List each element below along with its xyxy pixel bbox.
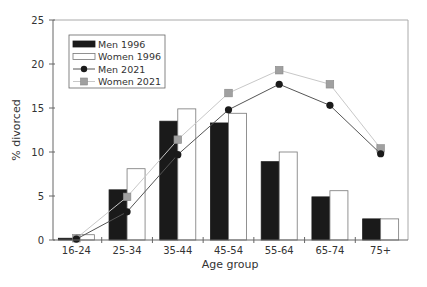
legend-label-men-2021: Men 2021 (98, 64, 145, 75)
marker-men-2021 (276, 81, 283, 88)
bar-men-1996 (211, 123, 229, 240)
marker-men-2021 (123, 208, 130, 215)
marker-men-2021 (73, 236, 80, 243)
x-tick-label: 65-74 (315, 245, 344, 256)
x-tick-label: 45-54 (214, 245, 243, 256)
bar-women-1996 (229, 113, 247, 240)
y-tick-label: 25 (31, 15, 44, 26)
legend-marker-men-2021 (81, 66, 87, 72)
marker-men-2021 (225, 106, 232, 113)
x-axis-title: Age group (202, 258, 259, 271)
legend-swatch-women-1996 (73, 54, 95, 60)
y-axis: 0510152025 (31, 15, 55, 246)
x-axis: 16-2425-3435-4445-5455-6465-7475+ (53, 237, 408, 256)
marker-men-2021 (377, 150, 384, 157)
x-tick-label: 16-24 (62, 245, 91, 256)
x-tick-label: 75+ (370, 245, 391, 256)
x-tick-label: 35-44 (163, 245, 192, 256)
y-tick-label: 20 (31, 59, 44, 70)
bar-women-1996 (381, 219, 399, 240)
x-tick-label: 25-34 (113, 245, 142, 256)
bar-men-1996 (312, 197, 330, 240)
marker-women-2021 (225, 89, 233, 97)
legend-label-women-2021: Women 2021 (98, 76, 161, 87)
legend-marker-women-2021 (81, 78, 88, 85)
marker-men-2021 (326, 102, 333, 109)
bar-women-1996 (330, 191, 348, 240)
legend-label-men-1996: Men 1996 (98, 39, 145, 50)
bar-men-1996 (261, 162, 279, 240)
legend-swatch-men-1996 (73, 41, 95, 47)
marker-women-2021 (174, 136, 182, 144)
y-tick-label: 15 (31, 103, 44, 114)
chart-canvas: 0510152025 16-2425-3435-4445-5455-6465-7… (0, 0, 427, 287)
bars-layer (58, 109, 398, 240)
marker-women-2021 (326, 80, 334, 88)
bar-men-1996 (363, 219, 381, 240)
marker-women-2021 (123, 193, 131, 201)
legend-label-women-1996: Women 1996 (98, 51, 161, 62)
y-axis-title: % divorced (10, 99, 23, 160)
marker-women-2021 (275, 66, 283, 74)
y-tick-label: 0 (38, 235, 44, 246)
divorce-chart: 0510152025 16-2425-3435-4445-5455-6465-7… (0, 0, 427, 287)
y-tick-label: 10 (31, 147, 44, 158)
legend: Men 1996Women 1996Men 2021Women 2021 (69, 35, 165, 88)
y-tick-label: 5 (38, 191, 44, 202)
bar-women-1996 (178, 109, 196, 240)
marker-men-2021 (174, 151, 181, 158)
bar-women-1996 (279, 152, 297, 240)
x-tick-label: 55-64 (265, 245, 294, 256)
